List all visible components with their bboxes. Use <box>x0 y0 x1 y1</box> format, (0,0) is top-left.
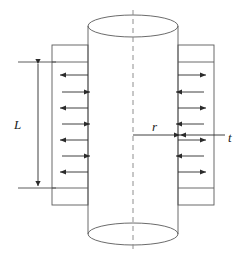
wall-section-right <box>178 45 214 205</box>
pressure-vessel-diagram: L r t <box>0 0 243 259</box>
pressure-arrows-right <box>176 75 206 172</box>
length-dimension <box>18 62 56 188</box>
length-label: L <box>14 118 21 131</box>
diagram-canvas <box>0 0 243 259</box>
pressure-arrows-left <box>60 75 90 172</box>
radius-label: r <box>152 120 157 133</box>
thickness-label: t <box>228 131 232 144</box>
wall-section-left <box>52 45 88 205</box>
